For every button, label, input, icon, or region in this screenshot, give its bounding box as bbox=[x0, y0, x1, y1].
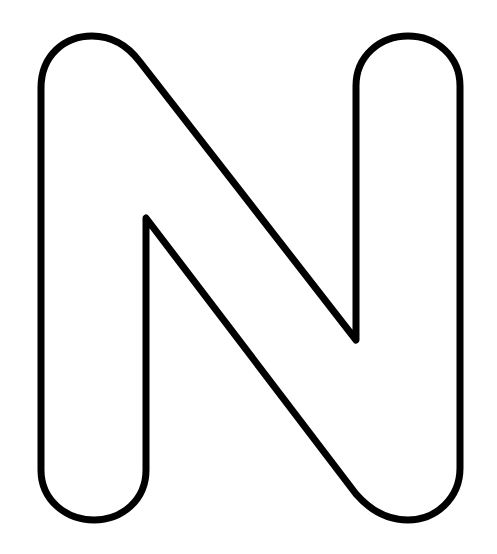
letter-n-path bbox=[41, 36, 460, 520]
letter-n-outline bbox=[0, 0, 497, 554]
